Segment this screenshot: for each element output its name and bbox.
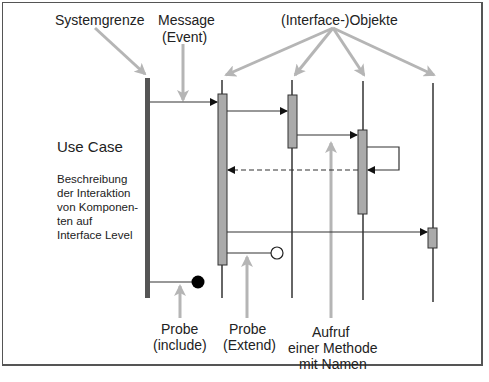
label-probe-include: Probe: [161, 321, 198, 338]
message-object-3-self-call: [367, 147, 399, 170]
use-case-description-line-4: ten auf: [57, 214, 92, 229]
label-probe-extend: Probe: [229, 321, 266, 338]
label-interface-objekte: (Interface-)Objekte: [281, 12, 398, 29]
use-case-description-line-2: der Interaktion: [57, 186, 131, 201]
activation-object-1: [218, 94, 227, 265]
label-message-event: (Event): [162, 29, 207, 46]
activation-object-2: [288, 95, 297, 148]
use-case-description-line-1: Beschreibung: [57, 172, 127, 187]
use-case-title: Use Case: [57, 138, 123, 155]
label-method-call-line-3: mit Namen: [299, 356, 367, 373]
probe-extend-open-circle-icon: [271, 247, 283, 259]
label-systemgrenze: Systemgrenze: [55, 12, 144, 29]
activation-object-4: [428, 228, 437, 248]
probe-include-filled-circle-icon: [192, 276, 205, 289]
use-case-description-line-5: Interface Level: [57, 228, 132, 243]
label-probe-include-kind: (include): [153, 337, 207, 354]
label-method-call-line-2: einer Methode: [288, 340, 378, 357]
label-probe-extend-kind: (Extend): [223, 337, 276, 354]
use-case-description-line-3: von Komponen-: [57, 200, 138, 215]
system-boundary-bar: [145, 78, 150, 298]
label-message: Message: [158, 12, 215, 29]
systemgrenze-pointer-arrow: [95, 28, 145, 74]
activation-object-3: [358, 130, 367, 214]
probes: [150, 247, 283, 289]
objects-pointer-arrow-1: [226, 28, 333, 75]
activations: [218, 94, 437, 265]
label-method-call: Aufruf: [312, 324, 349, 341]
lifelines: [222, 80, 433, 302]
